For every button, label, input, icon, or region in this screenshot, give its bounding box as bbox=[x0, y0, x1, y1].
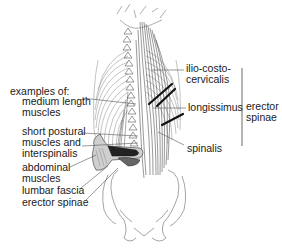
label-erector-spinae-lower: erector spinae bbox=[22, 197, 89, 208]
label-line: cervicalis bbox=[186, 74, 231, 85]
label-spinalis: spinalis bbox=[187, 143, 222, 154]
skull-base-outline bbox=[117, 4, 166, 28]
label-line: muscles bbox=[22, 173, 70, 184]
pelvis-outline bbox=[103, 170, 186, 241]
label-abdominal-muscles: abdominal muscles bbox=[22, 162, 70, 184]
label-longissimus: longissimus bbox=[188, 102, 243, 113]
anatomy-figure: examples of: medium length muscles short… bbox=[0, 0, 282, 250]
lumbar-fascia-section bbox=[92, 134, 143, 170]
label-lumbar-fascia: lumbar fascia bbox=[22, 185, 84, 196]
label-line: muscles bbox=[22, 107, 91, 118]
label-line: interspinalis bbox=[22, 148, 86, 159]
label-erector-spinae-group: erector spinae bbox=[246, 101, 279, 123]
label-short-postural-muscles: short postural muscles and interspinalis bbox=[22, 126, 86, 159]
label-ilio-costo-cervicalis: ilio-costo- cervicalis bbox=[186, 63, 231, 85]
label-line: spinae bbox=[246, 112, 279, 123]
label-medium-length-muscles: medium length muscles bbox=[22, 96, 91, 118]
